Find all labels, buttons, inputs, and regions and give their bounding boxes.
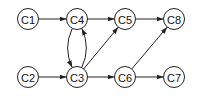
node-c3: C3 (67, 67, 88, 88)
node-c5: C5 (115, 9, 136, 30)
edge-c3-to-c4 (82, 29, 87, 68)
node-label: C7 (167, 72, 181, 84)
edge-c3-to-c5 (84, 27, 119, 69)
edge-c6-to-c8 (132, 27, 167, 69)
node-c6: C6 (115, 67, 136, 88)
node-c4: C4 (67, 9, 88, 30)
directed-graph: C1C4C5C8C2C3C6C7 (0, 0, 197, 96)
node-label: C4 (70, 14, 84, 26)
node-label: C2 (21, 72, 35, 84)
node-c8: C8 (164, 9, 185, 30)
node-c2: C2 (18, 67, 39, 88)
edge-c4-to-c3 (68, 29, 73, 68)
node-c7: C7 (164, 67, 185, 88)
node-c1: C1 (18, 9, 39, 30)
node-label: C6 (118, 72, 132, 84)
node-label: C1 (21, 14, 35, 26)
node-label: C5 (118, 14, 132, 26)
node-label: C8 (167, 14, 181, 26)
node-label: C3 (70, 72, 84, 84)
